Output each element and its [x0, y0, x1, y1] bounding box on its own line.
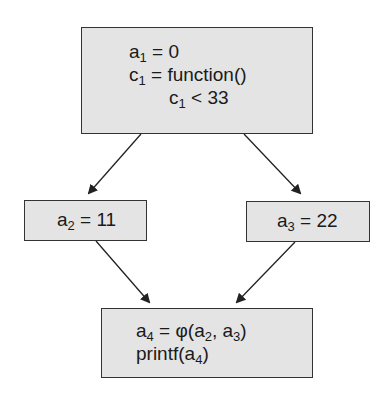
node-left: a2 = 11 [24, 200, 147, 241]
node-join: a4 = φ(a2, a3) printf(a4) [101, 308, 313, 378]
right-line-1: a3 = 22 [277, 210, 338, 232]
node-entry: a1 = 0 c1 = function() c1 < 33 [81, 27, 313, 134]
node-right: a3 = 22 [246, 201, 370, 242]
left-line-1: a2 = 11 [57, 209, 116, 231]
entry-line-2: c1 = function() [129, 64, 247, 86]
join-line-1: a4 = φ(a2, a3) [136, 320, 247, 342]
edge-entry-right [244, 134, 300, 193]
edge-left-join [96, 241, 149, 302]
join-line-2: printf(a4) [136, 343, 209, 365]
edge-right-join [237, 242, 295, 302]
entry-line-1: a1 = 0 [129, 41, 179, 63]
edge-entry-left [89, 134, 141, 193]
entry-line-3: c1 < 33 [169, 87, 229, 109]
